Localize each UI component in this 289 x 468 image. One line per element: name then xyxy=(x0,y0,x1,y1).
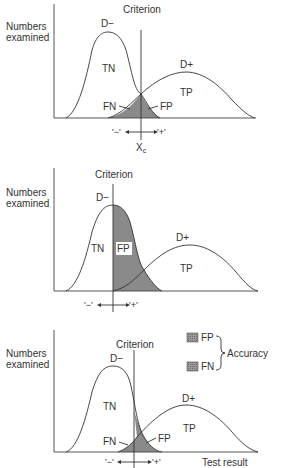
positive-marker: '+' xyxy=(157,127,166,137)
d-minus-label: D− xyxy=(101,18,114,29)
legend-group-label: Accuracy xyxy=(227,348,268,359)
positive-marker: '+' xyxy=(129,300,138,310)
fp-label: FP xyxy=(117,243,130,254)
d-plus-label: D+ xyxy=(180,59,193,70)
legend-fn-label: FN xyxy=(201,361,214,372)
x-axis-label: Test result xyxy=(202,457,248,468)
positive-marker: '+' xyxy=(152,457,161,467)
y-axis-label-line2: examined xyxy=(6,198,49,209)
d-minus-label: D− xyxy=(96,192,109,203)
tp-label: TP xyxy=(180,263,193,274)
tn-label: TN xyxy=(103,401,116,412)
arrow-left-head xyxy=(125,130,129,134)
fn-label: FN xyxy=(103,436,116,447)
d-plus-label: D+ xyxy=(176,232,189,243)
y-axis-label-line1: Numbers xyxy=(6,348,47,359)
negative-marker: '−' xyxy=(105,457,114,467)
fp-label: FP xyxy=(160,101,173,112)
criterion-label: Criterion xyxy=(116,339,154,350)
negative-marker: '−' xyxy=(84,300,93,310)
arrow-left-head xyxy=(117,460,121,464)
tn-label: TN xyxy=(91,243,104,254)
fn-label: FN xyxy=(103,101,116,112)
y-axis-label-line1: Numbers xyxy=(6,21,47,32)
fp-label: FP xyxy=(158,433,171,444)
panel-1: Numbers examined Criterion D− D+ TN TP F… xyxy=(6,4,256,154)
negative-marker: '−' xyxy=(112,127,121,137)
legend-fp-label: FP xyxy=(201,332,214,343)
arrow-left-head xyxy=(97,303,101,307)
y-axis-label-line1: Numbers xyxy=(6,187,47,198)
y-axis-label-line2: examined xyxy=(6,359,49,370)
y-axis-label-line2: examined xyxy=(6,32,49,43)
tp-label: TP xyxy=(183,423,196,434)
legend: FP FN Accuracy xyxy=(187,332,268,372)
panel-2: Numbers examined Criterion D− D+ TN FP T… xyxy=(6,168,258,312)
legend-fp-swatch xyxy=(187,333,198,342)
signal-detection-diagram: Numbers examined Criterion D− D+ TN TP F… xyxy=(0,0,289,468)
legend-brace xyxy=(216,336,225,370)
criterion-value-label: Xc xyxy=(136,142,147,154)
legend-fn-swatch xyxy=(187,362,198,371)
fn-leader xyxy=(119,442,128,445)
tp-label: TP xyxy=(180,87,193,98)
tn-label: TN xyxy=(102,63,115,74)
d-minus-label: D− xyxy=(110,353,123,364)
d-plus-label: D+ xyxy=(182,393,195,404)
criterion-label: Criterion xyxy=(95,169,133,180)
error-shaded-region xyxy=(118,410,162,452)
criterion-label: Criterion xyxy=(123,4,161,15)
panel-3: Numbers examined Criterion D− D+ TN TP F… xyxy=(6,330,268,468)
fp-leader xyxy=(146,438,156,443)
